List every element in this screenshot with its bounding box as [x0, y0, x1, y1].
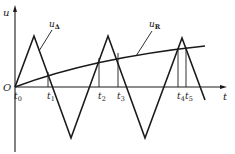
time-label-t4: t4 — [177, 91, 185, 103]
y-axis-arrow-icon — [13, 5, 17, 12]
triangle-wave-leader — [39, 30, 52, 51]
time-label-t5: t5 — [185, 91, 193, 103]
signal-labels: uΔuR — [49, 19, 161, 31]
time-label-t3: t3 — [117, 91, 125, 103]
triangle-wave-label: uΔ — [49, 19, 60, 31]
x-axis-label: t — [223, 91, 228, 102]
diagram-canvas: u t O uΔuR t0t1t2t3t4t5 — [0, 0, 235, 154]
ramp-curve-leader — [136, 31, 152, 56]
x-axis-arrow-icon — [220, 85, 227, 89]
y-axis-label: u — [3, 7, 9, 18]
waveform-diagram: u t O uΔuR t0t1t2t3t4t5 — [0, 0, 235, 154]
time-label-t2: t2 — [98, 91, 106, 103]
origin-label: O — [3, 82, 11, 93]
time-labels: t0t1t2t3t4t5 — [14, 91, 193, 103]
label-leader-lines — [39, 30, 152, 56]
time-label-t1: t1 — [47, 91, 55, 103]
ramp-curve-label: uR — [149, 19, 161, 31]
